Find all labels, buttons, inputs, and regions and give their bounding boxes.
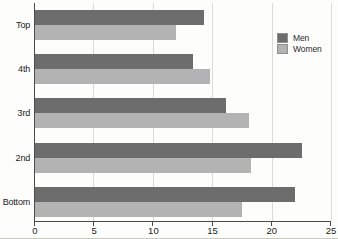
bar-chart-figure: Top4th3rd2ndBottom 0510152025 Men Women (0, 0, 338, 239)
bar-men-4th (35, 54, 193, 69)
legend-item-women: Women (277, 44, 322, 54)
bar-women-4th (35, 69, 210, 84)
bar-men-3rd (35, 98, 226, 113)
bar-men-2nd (35, 143, 302, 158)
legend-label-men: Men (293, 33, 309, 43)
women-swatch-icon (277, 44, 288, 54)
y-axis-label-4th: 4th (0, 63, 30, 75)
y-axis-label-bottom: Bottom (0, 196, 30, 208)
bar-women-top (35, 25, 176, 40)
x-axis-tick-label-15: 15 (207, 226, 218, 236)
legend-item-men: Men (277, 33, 322, 43)
y-axis-label-2nd: 2nd (0, 152, 30, 164)
legend-label-women: Women (293, 44, 322, 54)
men-swatch-icon (277, 33, 288, 43)
x-axis-tick-label-10: 10 (148, 226, 159, 236)
bar-women-2nd (35, 158, 251, 173)
y-axis-label-top: Top (0, 19, 30, 31)
bar-women-3rd (35, 113, 249, 128)
x-axis-tick-label-5: 5 (92, 226, 97, 236)
bar-women-bottom (35, 202, 242, 217)
x-axis-tick-label-0: 0 (32, 226, 37, 236)
x-axis-tick-label-25: 25 (326, 226, 337, 236)
y-axis-label-3rd: 3rd (0, 107, 30, 119)
x-axis-tick-label-20: 20 (267, 226, 278, 236)
legend: Men Women (277, 33, 322, 55)
bar-men-top (35, 10, 204, 25)
bar-men-bottom (35, 187, 295, 202)
gridline-25 (331, 3, 332, 221)
